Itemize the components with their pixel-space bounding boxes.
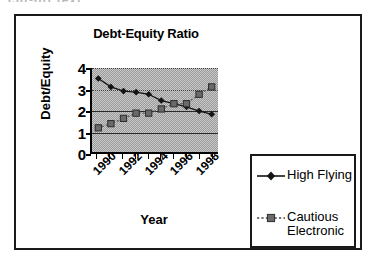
data-point bbox=[196, 108, 203, 115]
data-point bbox=[108, 121, 114, 127]
y-tick-label-0: 0 bbox=[78, 147, 86, 162]
y-axis-tick-labels: 01234 bbox=[60, 68, 86, 154]
scan-artifact-text: cut-off text bbox=[8, 0, 82, 2]
data-point bbox=[209, 84, 215, 90]
x-axis-title: Year bbox=[90, 212, 218, 227]
x-tick-mark bbox=[199, 154, 200, 159]
x-axis-tick-labels: 19901992199419961998 bbox=[82, 162, 242, 208]
data-point bbox=[95, 125, 101, 131]
legend-key-square-icon bbox=[257, 211, 285, 225]
y-tick-mark-2 bbox=[86, 111, 91, 113]
x-tick-mark bbox=[122, 154, 123, 159]
y-tick-mark-1 bbox=[86, 133, 91, 135]
data-point bbox=[208, 111, 215, 118]
data-point bbox=[120, 115, 126, 121]
series-line-1 bbox=[98, 87, 211, 128]
chart-legend: High Flying CautiousElectronic bbox=[250, 154, 356, 248]
data-point bbox=[196, 91, 202, 97]
series-layer bbox=[92, 68, 218, 152]
chart-frame: Debt-Equity Ratio Debt/Equity 01234 1990… bbox=[14, 14, 362, 250]
x-tick-mark bbox=[96, 154, 97, 159]
data-point bbox=[158, 106, 164, 112]
y-tick-label-4: 4 bbox=[78, 61, 86, 76]
y-tick-label-2: 2 bbox=[78, 104, 86, 119]
y-tick-label-1: 1 bbox=[78, 125, 86, 140]
series-line-0 bbox=[98, 79, 211, 115]
legend-key-diamond-icon bbox=[257, 169, 285, 183]
data-point bbox=[133, 110, 139, 116]
data-point bbox=[171, 101, 177, 107]
legend-item-high-flying[interactable]: High Flying bbox=[257, 168, 352, 183]
plot-area bbox=[90, 68, 218, 154]
x-tick-mark bbox=[173, 154, 174, 159]
data-point bbox=[133, 89, 140, 96]
legend-label-high-flying: High Flying bbox=[287, 168, 352, 182]
legend-label-cautious-electronic: CautiousElectronic bbox=[287, 210, 344, 238]
y-tick-mark-4 bbox=[86, 68, 91, 70]
data-point bbox=[158, 97, 165, 104]
x-tick-mark bbox=[148, 154, 149, 159]
y-tick-label-3: 3 bbox=[78, 82, 86, 97]
chart-title: Debt-Equity Ratio bbox=[16, 26, 276, 41]
y-tick-mark-3 bbox=[86, 90, 91, 92]
legend-item-cautious-electronic[interactable]: CautiousElectronic bbox=[257, 210, 344, 238]
y-axis-title: Debt/Equity bbox=[38, 41, 53, 127]
data-point bbox=[120, 88, 127, 95]
data-point bbox=[183, 101, 189, 107]
data-point bbox=[145, 91, 152, 98]
y-tick-mark-0 bbox=[86, 154, 91, 156]
data-point bbox=[146, 110, 152, 116]
